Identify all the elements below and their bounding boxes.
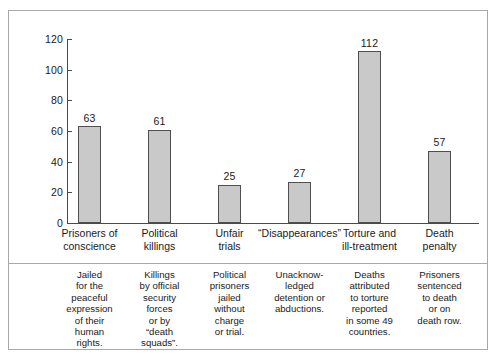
bar-unfair-trials[interactable] — [218, 185, 241, 223]
y-tick-60 — [67, 131, 72, 132]
y-tick-120 — [67, 39, 72, 40]
bar-value-death-penalty: 57 — [420, 137, 460, 148]
annotation-death-penalty: Prisonerssentencedto deathor ondeath row… — [398, 269, 482, 326]
y-tick-label-40: 40 — [23, 157, 63, 168]
category-line-1: Death — [398, 227, 482, 240]
y-tick-label-100: 100 — [23, 65, 63, 76]
y-tick-label-80: 80 — [23, 95, 63, 106]
y-tick-label-60: 60 — [23, 126, 63, 137]
y-tick-20 — [67, 192, 72, 193]
category-line-2: penalty — [398, 240, 482, 253]
bar-political-killings[interactable] — [148, 130, 171, 224]
y-tick-80 — [67, 100, 72, 101]
category-label-row: Prisoners of conscience Political killin… — [9, 227, 489, 261]
y-tick-40 — [67, 162, 72, 163]
bar-prisoners-of-conscience[interactable] — [78, 126, 101, 223]
bar-torture-and-ill-treatment[interactable] — [358, 51, 381, 223]
y-tick-label-120: 120 — [23, 34, 63, 45]
section-divider — [9, 263, 487, 264]
y-tick-0 — [67, 223, 72, 224]
x-axis-line — [67, 223, 479, 224]
bar-value-unfair-trials: 25 — [210, 171, 250, 182]
bar-value-political-killings: 61 — [140, 116, 180, 127]
category-label-death-penalty: Death penalty — [398, 227, 482, 252]
bar-value-disappearances: 27 — [280, 168, 320, 179]
category-line-2: trials — [188, 240, 272, 253]
bar-death-penalty[interactable] — [428, 151, 451, 223]
plot-area: 120 100 80 60 40 20 0 63 61 25 27 112 57 — [9, 11, 489, 226]
bar-value-prisoners-of-conscience: 63 — [70, 113, 110, 124]
bar-value-torture-and-ill-treatment: 112 — [350, 38, 390, 49]
y-tick-100 — [67, 70, 72, 71]
chart-figure: 120 100 80 60 40 20 0 63 61 25 27 112 57… — [8, 10, 488, 350]
annotation-row: Jailedfor thepeacefulexpressionof theirh… — [9, 269, 489, 349]
bar-disappearances[interactable] — [288, 182, 311, 223]
y-tick-label-20: 20 — [23, 187, 63, 198]
